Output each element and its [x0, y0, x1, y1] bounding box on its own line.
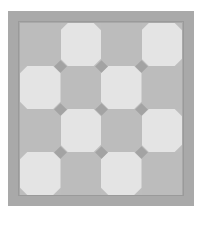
light-tile — [142, 109, 183, 152]
tile-border-frame — [8, 11, 194, 206]
dark-tile — [142, 152, 183, 195]
dark-tile — [142, 66, 183, 109]
light-tile — [61, 23, 102, 66]
light-tile — [101, 66, 142, 109]
tile-grid — [20, 23, 182, 195]
light-tile — [142, 23, 183, 66]
light-tile — [20, 66, 61, 109]
dark-tile — [101, 109, 142, 152]
dark-tile — [20, 23, 61, 66]
dark-tile — [61, 152, 102, 195]
light-tile — [20, 152, 61, 195]
dark-tile — [101, 23, 142, 66]
light-tile — [101, 152, 142, 195]
dark-tile — [61, 66, 102, 109]
light-tile — [61, 109, 102, 152]
dark-tile — [20, 109, 61, 152]
